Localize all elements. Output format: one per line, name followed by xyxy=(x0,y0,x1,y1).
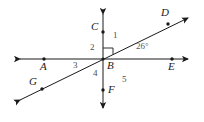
angle-label-1: 1 xyxy=(113,31,118,40)
point-label-B: B xyxy=(107,60,114,71)
point-dot-D xyxy=(166,22,169,25)
point-label-E: E xyxy=(168,61,175,72)
point-label-D: D xyxy=(161,7,169,18)
point-dot-B xyxy=(101,57,104,60)
point-dot-G xyxy=(40,87,43,90)
angle-label-2: 2 xyxy=(90,43,95,52)
angle-measure-26-degrees: 26° xyxy=(136,42,149,51)
point-dot-C xyxy=(101,30,104,33)
point-dot-F xyxy=(101,88,104,91)
angle-label-5: 5 xyxy=(122,75,127,84)
right-angle-mark-CBD xyxy=(103,48,113,54)
point-label-F: F xyxy=(108,84,115,95)
angle-label-3: 3 xyxy=(73,61,78,70)
point-label-C: C xyxy=(91,21,98,32)
point-label-A: A xyxy=(40,61,47,72)
angle-label-4: 4 xyxy=(93,69,98,78)
point-label-G: G xyxy=(29,76,37,87)
geometry-diagram: A B C D E F G 1 2 3 4 5 26° xyxy=(0,0,204,122)
